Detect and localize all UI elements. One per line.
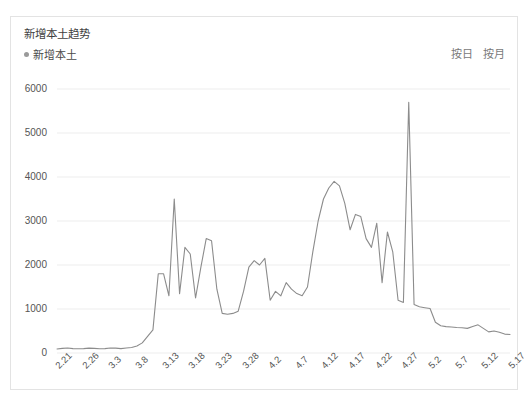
y-axis-tick-label: 2000	[13, 259, 47, 270]
line-chart-svg	[11, 17, 517, 389]
series-line-new-local	[57, 102, 510, 349]
y-axis-tick-label: 3000	[13, 215, 47, 226]
y-axis-tick-label: 1000	[13, 303, 47, 314]
grid-lines	[57, 89, 510, 353]
y-axis-tick-label: 6000	[13, 83, 47, 94]
y-axis-tick-label: 4000	[13, 171, 47, 182]
chart-plot-area: 0100020003000400050006000 2.212.263.33.8…	[11, 17, 517, 389]
y-axis-tick-label: 0	[13, 347, 47, 358]
y-axis-tick-label: 5000	[13, 127, 47, 138]
clipped-top-text	[0, 0, 530, 12]
chart-card: 新增本土趋势 新增本土 按日 按月 0100020003000400050006…	[10, 16, 518, 390]
